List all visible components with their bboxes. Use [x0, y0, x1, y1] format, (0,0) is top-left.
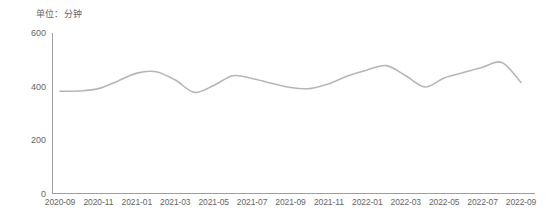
x-axis-tick-label: 2022-03 [391, 197, 422, 207]
line-chart: 单位：分钟 6004002000 2020-092020-112021-0120… [0, 0, 555, 213]
x-axis-tick-labels: 2020-092020-112021-012021-032021-052021-… [0, 197, 555, 211]
x-axis-tick-label: 2022-07 [467, 197, 498, 207]
x-axis-tick-label: 2022-05 [429, 197, 460, 207]
x-axis-tick-label: 2022-01 [352, 197, 383, 207]
x-axis-tick-label: 2021-07 [237, 197, 268, 207]
x-axis-tick-label: 2020-11 [83, 197, 113, 207]
plot-area [0, 0, 555, 213]
x-axis-tick-label: 2021-03 [160, 197, 191, 207]
x-axis-tick-label: 2021-01 [122, 197, 153, 207]
x-axis-tick-label: 2022-09 [506, 197, 537, 207]
x-axis-tick-label: 2021-05 [198, 197, 229, 207]
x-axis-tick-label: 2020-09 [45, 197, 76, 207]
x-axis-tick-label: 2021-09 [275, 197, 306, 207]
x-axis-tick-label: 2021-11 [314, 197, 344, 207]
series-line [60, 62, 521, 93]
